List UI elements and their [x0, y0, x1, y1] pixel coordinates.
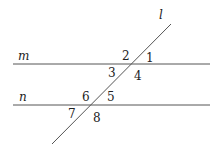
angle-6: 6: [82, 91, 90, 103]
label-m: m: [18, 50, 29, 62]
angle-4: 4: [134, 70, 142, 82]
label-l: l: [159, 9, 163, 21]
angle-8: 8: [93, 112, 101, 124]
parallel-lines-diagram: l m n 1 2 3 4 5 6 7 8: [0, 0, 220, 155]
angle-5: 5: [107, 91, 115, 103]
angle-3: 3: [108, 67, 116, 79]
label-n: n: [19, 91, 27, 103]
angle-7: 7: [68, 108, 76, 120]
angle-2: 2: [122, 50, 130, 62]
transversal-l: [52, 24, 171, 144]
angle-1: 1: [146, 52, 154, 64]
